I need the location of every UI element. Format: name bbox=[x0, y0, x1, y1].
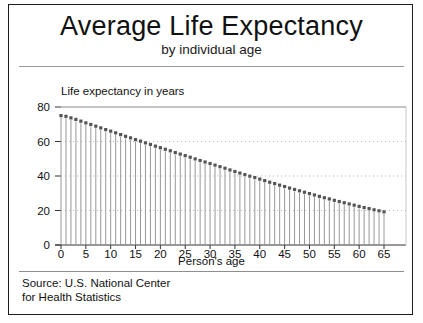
data-point-marker bbox=[343, 201, 346, 204]
data-point-marker bbox=[84, 121, 87, 124]
source-note: Source: U.S. National Center for Health … bbox=[22, 277, 170, 304]
data-point-marker bbox=[104, 128, 107, 131]
data-point-marker bbox=[154, 145, 157, 148]
chart-frame: Average Life Expectancy by individual ag… bbox=[8, 4, 413, 315]
y-axis-label: Life expectancy in years bbox=[61, 85, 184, 97]
data-point-marker bbox=[238, 171, 241, 174]
x-axis-tick-label: 0 bbox=[50, 248, 72, 260]
data-point-marker bbox=[179, 152, 182, 155]
data-point-marker bbox=[288, 186, 291, 189]
data-point-marker bbox=[268, 181, 271, 184]
y-axis-tick-label: 60 bbox=[37, 136, 50, 148]
x-axis-tick-label: 15 bbox=[125, 248, 147, 260]
x-axis-tick-label: 45 bbox=[274, 248, 296, 260]
data-point-marker bbox=[338, 200, 341, 203]
data-point-marker bbox=[348, 202, 351, 205]
data-point-marker bbox=[124, 135, 127, 138]
data-point-marker bbox=[363, 206, 366, 209]
life-expectancy-chart: 020406080 bbox=[9, 5, 414, 265]
data-point-marker bbox=[184, 154, 187, 157]
data-point-marker bbox=[248, 175, 251, 178]
data-point-marker bbox=[258, 178, 261, 181]
data-point-marker bbox=[218, 165, 221, 168]
x-axis-tick-label: 65 bbox=[373, 248, 395, 260]
data-point-marker bbox=[204, 160, 207, 163]
data-point-marker bbox=[134, 138, 137, 141]
data-point-marker bbox=[223, 167, 226, 170]
x-axis-tick-label: 25 bbox=[174, 248, 196, 260]
data-point-marker bbox=[74, 118, 77, 121]
data-point-marker bbox=[64, 115, 67, 118]
chart-plot-area: Life expectancy in years 020406080 Perso… bbox=[9, 5, 414, 316]
data-point-marker bbox=[59, 114, 62, 117]
data-point-marker bbox=[194, 157, 197, 160]
data-point-marker bbox=[367, 207, 370, 210]
data-point-marker bbox=[149, 143, 152, 146]
data-point-marker bbox=[233, 170, 236, 173]
data-point-marker bbox=[243, 173, 246, 176]
data-point-marker bbox=[79, 120, 82, 123]
data-point-marker bbox=[253, 176, 256, 179]
data-point-marker bbox=[208, 162, 211, 165]
data-point-marker bbox=[199, 159, 202, 162]
data-point-marker bbox=[109, 130, 112, 133]
y-axis-tick-label: 20 bbox=[37, 205, 50, 217]
chart-page: Average Life Expectancy by individual ag… bbox=[0, 0, 423, 323]
data-point-marker bbox=[114, 131, 117, 134]
data-point-marker bbox=[99, 126, 102, 129]
x-axis-tick-label: 60 bbox=[348, 248, 370, 260]
data-point-marker bbox=[353, 204, 356, 207]
x-axis-tick-label: 50 bbox=[298, 248, 320, 260]
data-point-marker bbox=[278, 184, 281, 187]
data-point-marker bbox=[69, 116, 72, 119]
x-axis-tick-label: 35 bbox=[224, 248, 246, 260]
x-axis-tick-label: 30 bbox=[199, 248, 221, 260]
data-point-marker bbox=[328, 197, 331, 200]
data-point-marker bbox=[189, 156, 192, 159]
x-axis-tick-label: 10 bbox=[100, 248, 122, 260]
data-point-marker bbox=[283, 185, 286, 188]
data-point-marker bbox=[139, 140, 142, 143]
data-point-marker bbox=[358, 205, 361, 208]
footer-divider bbox=[19, 271, 404, 272]
y-axis-tick-label: 40 bbox=[37, 170, 50, 182]
data-point-marker bbox=[164, 148, 167, 151]
data-point-marker bbox=[213, 164, 216, 167]
data-point-marker bbox=[298, 189, 301, 192]
data-point-marker bbox=[318, 195, 321, 198]
data-point-marker bbox=[119, 133, 122, 136]
data-point-marker bbox=[313, 193, 316, 196]
data-point-marker bbox=[144, 141, 147, 144]
data-point-marker bbox=[159, 146, 162, 149]
x-axis-tick-label: 20 bbox=[149, 248, 171, 260]
data-point-marker bbox=[94, 125, 97, 128]
data-point-marker bbox=[372, 208, 375, 211]
data-point-marker bbox=[169, 149, 172, 152]
data-point-marker bbox=[323, 196, 326, 199]
data-point-marker bbox=[303, 191, 306, 194]
data-point-marker bbox=[129, 136, 132, 139]
x-axis-tick-label: 55 bbox=[323, 248, 345, 260]
data-point-marker bbox=[293, 188, 296, 191]
x-axis-tick-label: 5 bbox=[75, 248, 97, 260]
x-axis-tick-label: 40 bbox=[249, 248, 271, 260]
data-point-marker bbox=[174, 151, 177, 154]
data-point-marker bbox=[382, 210, 385, 213]
data-point-marker bbox=[263, 179, 266, 182]
data-point-marker bbox=[333, 199, 336, 202]
data-point-marker bbox=[308, 192, 311, 195]
data-point-marker bbox=[89, 123, 92, 126]
data-point-marker bbox=[377, 209, 380, 212]
y-axis-tick-label: 80 bbox=[37, 101, 50, 113]
data-point-marker bbox=[273, 182, 276, 185]
data-point-marker bbox=[228, 168, 231, 171]
